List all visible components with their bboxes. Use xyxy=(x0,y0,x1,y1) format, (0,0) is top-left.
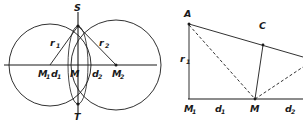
label-d1-subscript: 1 xyxy=(57,73,61,80)
label-r2-subscript: 2 xyxy=(105,42,109,49)
label-m1-subscript: 1 xyxy=(46,73,50,80)
label-t: T xyxy=(74,111,82,122)
label-right-r1-subscript: 1 xyxy=(186,58,190,65)
intersection-point-t xyxy=(76,102,79,105)
right-diagram-group: A C r 1 M 1 d 1 M d 2 xyxy=(180,8,303,115)
left-diagram-group: S T r 1 r 2 M 1 d 1 M d 2 M 2 xyxy=(4,2,161,122)
label-s: S xyxy=(74,2,81,13)
vertex-point-a xyxy=(188,23,191,26)
label-r1-subscript: 1 xyxy=(56,42,60,49)
label-c: C xyxy=(259,20,266,31)
label-right-d1-subscript: 1 xyxy=(221,108,225,115)
geometry-figure: S T r 1 r 2 M 1 d 1 M d 2 M 2 xyxy=(0,0,303,123)
dashed-segment-a-to-m xyxy=(189,25,255,99)
vertex-point-c xyxy=(262,44,265,47)
dashed-segment-m-to-right xyxy=(255,67,303,99)
label-right-m: M xyxy=(250,103,260,114)
center-point-m2 xyxy=(115,64,118,67)
label-m-mid: M xyxy=(70,68,80,79)
label-a: A xyxy=(183,8,191,19)
upper-slant-line xyxy=(189,24,303,57)
label-m2-subscript: 2 xyxy=(120,73,124,80)
label-d2-subscript: 2 xyxy=(98,73,102,80)
label-right-d2-subscript: 2 xyxy=(291,108,295,115)
radius-segment-r2 xyxy=(78,26,116,65)
label-right-m1-subscript: 1 xyxy=(192,108,196,115)
intersection-point-s xyxy=(76,24,79,27)
vertex-point-m xyxy=(254,98,257,101)
figure-canvas: S T r 1 r 2 M 1 d 1 M d 2 M 2 xyxy=(0,0,303,123)
segment-c-to-m xyxy=(255,45,263,99)
